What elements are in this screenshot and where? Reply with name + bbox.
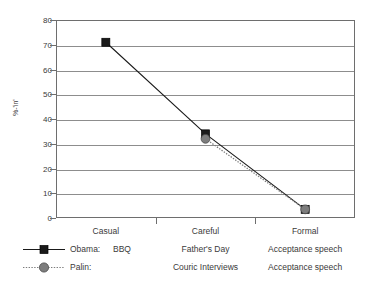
legend-cell: Acceptance speech bbox=[268, 262, 342, 272]
y-tick-label: 0 bbox=[30, 214, 52, 223]
legend: Obama:BBQFather's DayAcceptance speechPa… bbox=[0, 241, 373, 283]
y-axis-title: %-'in' bbox=[12, 99, 19, 116]
plot-wrapper: %-'in' 80706050403020100 CasualCarefulFo… bbox=[0, 0, 373, 232]
y-tick-label: 50 bbox=[30, 90, 52, 99]
y-tick-label: 30 bbox=[30, 139, 52, 148]
series-line-palin bbox=[206, 139, 306, 210]
legend-marker-icon bbox=[22, 259, 68, 276]
y-tick-mark bbox=[50, 218, 56, 219]
data-point-marker bbox=[301, 205, 310, 214]
legend-cell: Couric Interviews bbox=[173, 262, 238, 272]
x-tick-label-formal: Formal bbox=[292, 226, 318, 236]
y-tick-label: 60 bbox=[30, 65, 52, 74]
legend-row: Palin:Couric InterviewsAcceptance speech bbox=[0, 259, 373, 276]
y-tick-label: 20 bbox=[30, 164, 52, 173]
line-chart: %-'in' 80706050403020100 CasualCarefulFo… bbox=[0, 0, 373, 283]
legend-marker-icon bbox=[22, 241, 68, 258]
legend-cell: Acceptance speech bbox=[268, 244, 342, 254]
data-point-marker bbox=[102, 38, 110, 46]
legend-series-name: Palin: bbox=[70, 262, 91, 272]
x-tick-mark bbox=[156, 218, 157, 224]
data-point-marker bbox=[201, 134, 210, 143]
y-tick-label: 70 bbox=[30, 40, 52, 49]
x-tick-mark bbox=[255, 218, 256, 224]
data-series-layer bbox=[56, 20, 355, 218]
legend-row: Obama:BBQFather's DayAcceptance speech bbox=[0, 241, 373, 258]
series-line-obama bbox=[106, 42, 305, 209]
x-tick-label-careful: Careful bbox=[192, 226, 219, 236]
legend-cell: BBQ bbox=[113, 244, 131, 254]
y-tick-label: 40 bbox=[30, 115, 52, 124]
legend-cell: Father's Day bbox=[182, 244, 230, 254]
legend-series-name: Obama: bbox=[70, 244, 100, 254]
x-tick-label-casual: Casual bbox=[93, 226, 119, 236]
y-tick-label: 80 bbox=[30, 16, 52, 25]
y-tick-label: 10 bbox=[30, 189, 52, 198]
